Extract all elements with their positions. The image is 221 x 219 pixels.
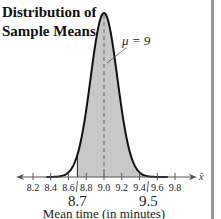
x-tick-label: 9.2 [116, 182, 129, 193]
chart-title: Distribution of Sample Means [2, 3, 97, 41]
axis-symbol: x̄ [198, 171, 204, 182]
chart: Distribution of Sample Means x̄ 8.28.48.… [0, 0, 221, 219]
x-axis-label: Mean time (in minutes) [43, 206, 165, 219]
x-tick-label: 9.0 [98, 182, 111, 193]
x-tick-label: 8.8 [80, 182, 93, 193]
x-tick-label: 9.8 [169, 182, 182, 193]
x-tick-label: 8.6 [62, 182, 75, 193]
x-tick-label: 8.2 [27, 182, 40, 193]
x-tick-label: 9.6 [151, 182, 164, 193]
x-tick-label: 8.4 [45, 182, 58, 193]
x-tick-label: 9.4 [133, 182, 146, 193]
chart-title-line-2: Sample Means [2, 22, 97, 41]
mean-label: μ = 9 [121, 33, 151, 48]
page-edge-rule [211, 0, 214, 219]
boundary-tick [147, 181, 148, 192]
chart-title-line-1: Distribution of [2, 3, 97, 22]
boundary-tick [76, 181, 77, 192]
